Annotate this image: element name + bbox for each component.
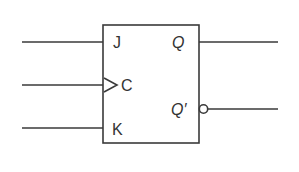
label-c: C [121, 77, 133, 94]
jk-flip-flop-diagram: J C K Q Q′ [0, 0, 299, 172]
label-k: K [112, 121, 123, 138]
label-q: Q [172, 34, 184, 51]
label-q-bar: Q′ [171, 101, 187, 118]
inversion-bubble-icon [199, 105, 207, 113]
label-j: J [113, 34, 121, 51]
